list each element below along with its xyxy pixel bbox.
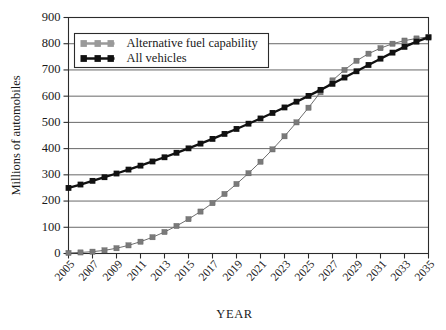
y-tick-label: 0 <box>54 246 60 260</box>
data-point-marker <box>138 239 143 244</box>
data-point-marker <box>294 99 300 105</box>
x-tick-label: 2017 <box>196 258 220 283</box>
y-axis-title: Millions of automobiles <box>9 75 23 195</box>
data-point-marker <box>66 250 71 255</box>
data-point-marker <box>90 178 96 184</box>
data-point-marker <box>114 246 119 251</box>
y-tick-label: 600 <box>42 89 61 103</box>
data-point-marker <box>174 150 180 156</box>
data-point-marker <box>234 126 240 132</box>
chart-figure: 0100200300400500600700800900200520072009… <box>0 0 446 330</box>
data-point-marker <box>246 171 251 176</box>
x-tick-label: 2035 <box>412 258 436 283</box>
data-point-marker <box>378 46 383 51</box>
data-point-marker <box>150 235 155 240</box>
data-point-marker <box>210 201 215 206</box>
data-point-marker <box>306 105 311 110</box>
chart-legend: Alternative fuel capabilityAll vehicles <box>75 34 269 68</box>
x-tick-label: 2011 <box>124 258 148 283</box>
data-point-marker <box>378 56 384 62</box>
x-tick-label: 2031 <box>364 258 388 283</box>
legend-swatch-marker <box>95 40 101 47</box>
y-tick-label: 900 <box>42 10 61 24</box>
data-point-marker <box>414 39 420 45</box>
data-point-marker <box>342 67 347 72</box>
x-tick-label: 2019 <box>220 258 244 283</box>
data-point-marker <box>162 229 167 234</box>
data-point-marker <box>390 50 396 56</box>
x-tick-label: 2029 <box>340 258 364 283</box>
data-point-marker <box>210 136 216 142</box>
data-point-marker <box>126 243 131 248</box>
y-tick-label: 500 <box>42 115 61 129</box>
data-point-marker <box>150 159 156 165</box>
data-point-marker <box>294 120 299 125</box>
series-line <box>69 37 429 253</box>
x-tick-label: 2027 <box>316 258 340 283</box>
y-tick-label: 300 <box>42 167 61 181</box>
x-tick-label: 2023 <box>268 258 292 283</box>
x-tick-label: 2021 <box>244 258 268 283</box>
data-point-marker <box>330 81 336 87</box>
data-point-marker <box>282 134 287 139</box>
x-tick-label: 2013 <box>148 258 172 283</box>
data-point-marker <box>162 154 168 160</box>
legend-label: Alternative fuel capability <box>127 36 259 50</box>
data-point-marker <box>198 209 203 214</box>
x-axis-title: YEAR <box>216 307 252 321</box>
data-point-marker <box>174 223 179 228</box>
data-point-marker <box>186 217 191 222</box>
data-point-marker <box>126 167 132 173</box>
data-point-marker <box>342 75 348 81</box>
y-tick-label: 800 <box>42 36 61 50</box>
data-point-marker <box>138 163 144 169</box>
y-axis-ticks: 0100200300400500600700800900 <box>42 10 69 260</box>
data-point-marker <box>90 249 95 254</box>
y-tick-label: 700 <box>42 62 61 76</box>
legend-swatch-marker <box>108 55 114 62</box>
data-point-marker <box>102 174 108 180</box>
legend-swatch-marker <box>108 40 114 47</box>
data-point-marker <box>282 105 288 111</box>
x-tick-label: 2005 <box>52 258 76 283</box>
data-point-marker <box>246 121 252 127</box>
data-point-marker <box>402 44 408 50</box>
data-point-marker <box>78 250 83 255</box>
data-point-marker <box>258 116 264 122</box>
y-tick-label: 100 <box>42 220 61 234</box>
legend-label: All vehicles <box>127 51 187 65</box>
y-tick-label: 400 <box>42 141 61 155</box>
data-point-marker <box>354 58 359 63</box>
data-point-marker <box>270 147 275 152</box>
data-point-marker <box>366 51 371 56</box>
data-point-marker <box>222 131 228 137</box>
chart-plot-svg: 0100200300400500600700800900200520072009… <box>0 0 446 330</box>
data-point-marker <box>270 110 276 116</box>
data-point-marker <box>366 62 372 68</box>
data-point-marker <box>318 87 324 93</box>
data-point-marker <box>114 171 120 177</box>
data-point-marker <box>258 159 263 164</box>
data-point-marker <box>426 35 432 41</box>
x-tick-label: 2015 <box>172 258 196 283</box>
x-tick-label: 2033 <box>388 258 412 283</box>
data-point-marker <box>402 38 407 43</box>
data-point-marker <box>66 185 72 191</box>
y-tick-label: 200 <box>42 193 61 207</box>
data-point-marker <box>78 182 84 188</box>
x-tick-label: 2025 <box>292 258 316 283</box>
data-point-marker <box>186 145 192 151</box>
data-point-marker <box>102 248 107 253</box>
data-point-marker <box>198 141 204 147</box>
data-point-marker <box>354 68 360 74</box>
legend-swatch-marker <box>81 55 87 62</box>
data-point-marker <box>222 191 227 196</box>
x-axis-ticks: 2005200720092011201320152017201920212023… <box>52 254 436 283</box>
data-point-marker <box>234 181 239 186</box>
x-tick-label: 2007 <box>76 258 100 283</box>
legend-swatch-marker <box>95 55 101 62</box>
data-point-marker <box>390 41 395 46</box>
data-point-marker <box>306 93 312 99</box>
x-tick-label: 2009 <box>100 258 124 283</box>
legend-swatch-marker <box>81 40 87 47</box>
